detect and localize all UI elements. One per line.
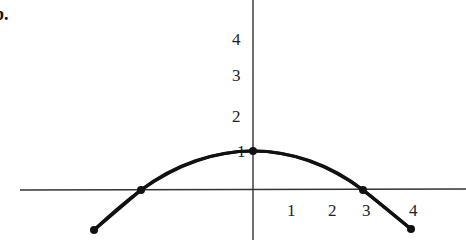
x-tick-3: 3 <box>362 201 371 220</box>
right-endpoint <box>407 225 415 233</box>
x-tick-1: 1 <box>287 201 296 220</box>
y-tick-3: 3 <box>232 66 241 85</box>
left-endpoint <box>90 226 98 234</box>
x-tick-4: 4 <box>409 201 418 220</box>
x-tick-2: 2 <box>328 201 337 220</box>
y-intercept-vertex <box>249 147 257 155</box>
y-tick-4: 4 <box>232 30 241 49</box>
right-x-intercept <box>359 186 367 194</box>
parabola-graph: b. 4 3 2 1 1 2 3 4 <box>0 0 466 243</box>
left-x-intercept <box>137 186 145 194</box>
y-tick-labels: 4 3 2 1 <box>232 30 246 161</box>
x-axis <box>20 189 466 190</box>
y-tick-2: 2 <box>232 107 241 126</box>
part-label: b. <box>0 4 9 24</box>
